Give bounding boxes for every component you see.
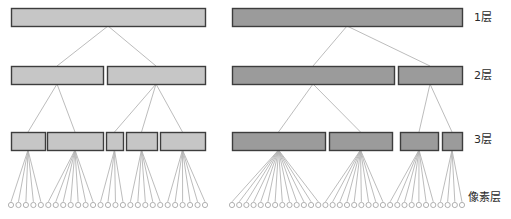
pixel-leaf-node [53, 202, 58, 207]
pixel-leaf-node [380, 202, 385, 207]
pixel-leaf-node [344, 202, 349, 207]
node-box-level-1 [233, 9, 463, 27]
pixel-leaf-node [273, 202, 278, 207]
edge-level3-pixel [28, 150, 33, 202]
node-box-level-3 [127, 133, 158, 151]
pixel-leaf-node [165, 202, 170, 207]
pixel-leaf-node [31, 202, 36, 207]
pixel-leaf-node [402, 202, 407, 207]
node-box-level-2 [12, 67, 104, 85]
pixel-leaf-node [68, 202, 73, 207]
pixel-leaf-node [8, 202, 13, 207]
pixel-leaf-node [202, 202, 207, 207]
node-boxes-layer [12, 9, 463, 151]
edge-level3-pixel [183, 150, 198, 202]
edge-level1-level2 [108, 26, 156, 66]
node-box-level-3 [12, 133, 46, 151]
edge-level3-pixel [419, 150, 426, 202]
pixel-leaf-node [244, 202, 249, 207]
pixel-leaf-node [323, 202, 328, 207]
edge-level3-pixel [361, 150, 362, 202]
edge-level2-level3 [142, 84, 157, 132]
edge-level2-level3 [430, 84, 452, 132]
pixel-leaf-node [280, 202, 285, 207]
edge-level3-pixel [347, 150, 361, 202]
pixel-leaf-node [438, 202, 443, 207]
pixel-leaf-node [128, 202, 133, 207]
edge-level3-pixel [440, 150, 452, 202]
edge-level2-level3 [115, 84, 157, 132]
edge-level3-pixel [333, 150, 361, 202]
pixel-leaf-node [265, 202, 270, 207]
pixel-leaf-node [229, 202, 234, 207]
node-box-level-3 [107, 133, 124, 151]
pixel-leaf-node [251, 202, 256, 207]
edges-layer [11, 26, 462, 202]
edge-level2-level3 [28, 84, 57, 132]
pixel-leaf-node [143, 202, 148, 207]
pixel-leaf-node [150, 202, 155, 207]
node-box-level-2 [108, 67, 206, 85]
edge-level3-pixel [246, 150, 278, 202]
pixel-leaf-node [23, 202, 28, 207]
node-box-level-3 [161, 133, 206, 151]
edge-level3-pixel [168, 150, 183, 202]
pixel-leaf-node [61, 202, 66, 207]
pixel-leaf-node [105, 202, 110, 207]
pixel-leaf-node [180, 202, 185, 207]
edge-level3-pixel [361, 150, 383, 202]
node-box-level-3 [48, 133, 104, 151]
pixel-leaf-node [294, 202, 299, 207]
node-box-level-3 [443, 133, 463, 151]
pixel-leaf-node [316, 202, 321, 207]
layer-label-pixel: 像素层 [468, 192, 502, 204]
pixel-leaf-node [301, 202, 306, 207]
edge-level3-pixel [419, 150, 433, 202]
pixel-leaf-node [158, 202, 163, 207]
pixel-leaf-node [452, 202, 457, 207]
edge-level3-pixel [405, 150, 420, 202]
layer-label-level-2: 2层 [474, 70, 492, 82]
edge-level3-pixel [101, 150, 115, 202]
edge-level3-pixel [28, 150, 41, 202]
edge-level3-pixel [361, 150, 376, 202]
edge-level1-level2 [313, 26, 347, 66]
edge-level3-pixel [361, 150, 369, 202]
pixel-leaf-node [187, 202, 192, 207]
pixel-leaf-node [366, 202, 371, 207]
edge-level2-level3 [279, 84, 314, 132]
edge-level3-pixel [254, 150, 279, 202]
edge-level1-level2 [57, 26, 108, 66]
node-box-level-1 [12, 9, 206, 27]
edge-level1-level2 [347, 26, 430, 66]
pixel-leaf-node [287, 202, 292, 207]
pixel-leaf-node [90, 202, 95, 207]
node-box-level-3 [401, 133, 439, 151]
edge-level3-pixel [232, 150, 279, 202]
edge-level3-pixel [239, 150, 278, 202]
pixel-leaf-node [173, 202, 178, 207]
pixel-leaf-node [38, 202, 43, 207]
pixel-leaf-node [195, 202, 200, 207]
pixel-leaf-node [120, 202, 125, 207]
layer-label-level-1: 1层 [474, 12, 492, 24]
pixel-leaf-node [113, 202, 118, 207]
node-box-level-3 [330, 133, 393, 151]
edge-level3-pixel [279, 150, 312, 202]
edge-level3-pixel [175, 150, 182, 202]
edge-level2-level3 [57, 84, 75, 132]
edge-level3-pixel [390, 150, 419, 202]
layered-tree-diagram: 1层 2层 3层 像素层 [0, 0, 511, 219]
tree-svg-canvas [0, 0, 511, 219]
edge-level3-pixel [279, 150, 304, 202]
pixel-leaf-node [431, 202, 436, 207]
pixel-leaf-node [46, 202, 51, 207]
pixel-leaf-node [16, 202, 21, 207]
pixel-leaf-node [83, 202, 88, 207]
pixel-leaf-node [373, 202, 378, 207]
pixel-leaf-node [359, 202, 364, 207]
node-box-level-2 [233, 67, 395, 85]
pixel-leaf-node [388, 202, 393, 207]
node-box-level-2 [399, 67, 463, 85]
pixel-leaf-node [308, 202, 313, 207]
